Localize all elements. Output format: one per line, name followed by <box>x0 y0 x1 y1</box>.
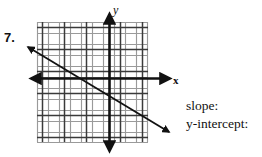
x-axis-label: x <box>173 74 179 86</box>
slope-prompt: slope: <box>186 97 248 115</box>
answer-prompts: slope: y-intercept: <box>186 97 248 133</box>
coordinate-graph: y x <box>0 0 262 157</box>
y-intercept-prompt: y-intercept: <box>186 115 248 133</box>
y-axis-label: y <box>112 3 119 17</box>
grid-vertical-lines <box>38 22 148 142</box>
worksheet-problem: 7. <box>0 0 262 157</box>
